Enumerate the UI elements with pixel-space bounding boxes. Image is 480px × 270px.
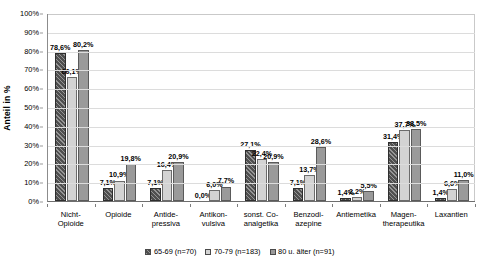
gridline xyxy=(48,33,475,34)
x-axis-category-label: Magen- therapeutika xyxy=(380,210,428,228)
x-axis-category-label: Antide- pressiva xyxy=(142,210,190,228)
gridline xyxy=(48,183,475,184)
bar-value-label: 28,6% xyxy=(308,138,334,146)
bar[interactable] xyxy=(363,191,374,201)
y-axis-tick-mark xyxy=(40,70,43,71)
plot-area: 78,6%66,1%80,2%7,1%10,9%19,8%7,1%16,4%20… xyxy=(47,14,475,202)
bar[interactable] xyxy=(162,170,173,201)
y-axis-tick-mark xyxy=(40,145,43,146)
x-axis-tick-mark xyxy=(47,204,48,207)
x-axis-category-label: Opioide xyxy=(95,210,143,219)
y-axis-tick-label: 70% xyxy=(24,67,39,74)
legend-item[interactable]: 80 u. älter (n=91) xyxy=(270,248,335,256)
y-axis-tick-label: 50% xyxy=(24,104,39,111)
x-axis-category-label: Antikon- vulsiva xyxy=(190,210,238,228)
legend-item[interactable]: 65-69 (n=70) xyxy=(145,248,196,256)
x-axis-tick-mark xyxy=(142,204,143,207)
bar[interactable] xyxy=(340,198,351,201)
y-axis-tick-mark xyxy=(40,89,43,90)
x-axis-tick-mark xyxy=(380,204,381,207)
legend-item[interactable]: 70-79 (n=183) xyxy=(205,248,260,256)
legend-label: 70-79 (n=183) xyxy=(214,248,261,256)
y-axis-title-text: Anteil in % xyxy=(2,85,12,131)
x-axis-category-label: sonst. Co- analgetika xyxy=(237,210,285,228)
legend-swatch xyxy=(145,249,151,255)
bar[interactable] xyxy=(447,189,458,201)
y-axis-tick-mark xyxy=(40,202,43,203)
bar[interactable] xyxy=(352,197,363,201)
y-axis-tick-label: 60% xyxy=(24,85,39,92)
y-axis-tick-mark xyxy=(40,108,43,109)
x-axis-category-label: Benzodi- azepine xyxy=(285,210,333,228)
gridline xyxy=(48,127,475,128)
y-axis-tick-mark xyxy=(40,14,43,15)
x-axis-category-label: Antiemetika xyxy=(332,210,380,219)
chart-legend: 65-69 (n=70)70-79 (n=183)80 u. älter (n=… xyxy=(0,248,480,256)
bar[interactable] xyxy=(316,147,327,201)
gridline xyxy=(48,146,475,147)
gridline xyxy=(48,52,475,53)
x-axis-tick-mark xyxy=(285,204,286,207)
y-axis-tick-label: 90% xyxy=(24,29,39,36)
y-axis-title: Anteil in % xyxy=(0,0,14,215)
x-axis-tick-mark xyxy=(475,204,476,207)
bar[interactable] xyxy=(150,188,161,201)
bar[interactable] xyxy=(293,188,304,201)
bar[interactable] xyxy=(399,130,410,201)
bar-value-label: 20,9% xyxy=(260,153,286,161)
bar-value-label: 20,9% xyxy=(165,153,191,161)
y-axis-tick-label: 30% xyxy=(24,142,39,149)
x-axis-tick-mark xyxy=(95,204,96,207)
y-axis-tick-label: 40% xyxy=(24,123,39,130)
legend-swatch xyxy=(270,249,276,255)
y-axis-tick-mark xyxy=(40,51,43,52)
y-axis-ticks: 100%90%80%70%60%50%40%30%20%10%0% xyxy=(14,14,43,202)
y-axis-tick-label: 100% xyxy=(20,10,39,17)
y-axis-tick-mark xyxy=(40,32,43,33)
gridline xyxy=(48,89,475,90)
x-axis-labels: Nicht- OpioideOpioideAntide- pressivaAnt… xyxy=(47,204,475,238)
gridline xyxy=(48,164,475,165)
y-axis-tick-label: 10% xyxy=(24,179,39,186)
gridline xyxy=(48,108,475,109)
x-axis-category-label: Laxantien xyxy=(427,210,475,219)
y-axis-tick-mark xyxy=(40,126,43,127)
bar[interactable] xyxy=(209,190,220,201)
y-axis-tick-label: 20% xyxy=(24,161,39,168)
bar[interactable] xyxy=(221,187,232,201)
gridline xyxy=(48,70,475,71)
bar-value-label: 19,8% xyxy=(118,155,144,163)
legend-label: 65-69 (n=70) xyxy=(154,248,197,256)
bar[interactable] xyxy=(173,162,184,201)
x-axis-category-label: Nicht- Opioide xyxy=(47,210,95,228)
bar[interactable] xyxy=(78,50,89,201)
bar-value-label: 11,0% xyxy=(451,171,477,179)
x-axis-tick-mark xyxy=(427,204,428,207)
legend-label: 80 u. älter (n=91) xyxy=(278,248,335,256)
bar[interactable] xyxy=(388,142,399,201)
bar[interactable] xyxy=(268,162,279,201)
bar-value-label: 80,2% xyxy=(70,41,96,49)
x-axis-tick-mark xyxy=(237,204,238,207)
plot-wrapper: 100%90%80%70%60%50%40%30%20%10%0% 78,6%6… xyxy=(14,14,476,217)
y-axis-tick-label: 80% xyxy=(24,48,39,55)
bar[interactable] xyxy=(435,198,446,201)
y-axis-tick-mark xyxy=(40,164,43,165)
legend-swatch xyxy=(205,249,211,255)
bar[interactable] xyxy=(304,175,315,201)
y-axis-tick-label: 0% xyxy=(28,198,39,205)
bar[interactable] xyxy=(103,188,114,201)
x-axis-tick-mark xyxy=(332,204,333,207)
bar-chart: Anteil in % 100%90%80%70%60%50%40%30%20%… xyxy=(0,0,480,270)
y-axis-tick-mark xyxy=(40,183,43,184)
x-axis-tick-mark xyxy=(190,204,191,207)
